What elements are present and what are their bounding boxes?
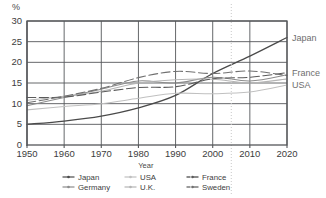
series-lines: [27, 38, 287, 125]
end-label-japan: Japan: [292, 33, 317, 43]
legend-column-col3: FranceSweden: [186, 172, 230, 192]
legend-label: Japan: [78, 173, 99, 182]
legend-marker-icon: [124, 183, 137, 191]
legend-item-uk[interactable]: U.K.: [124, 182, 156, 192]
legend-item-germany[interactable]: Germany: [62, 182, 110, 192]
legend-marker-icon: [62, 173, 75, 181]
legend-item-japan[interactable]: Japan: [62, 172, 110, 182]
legend-column-col2: USAU.K.: [124, 172, 156, 192]
legend-marker-icon: [62, 183, 75, 191]
legend-column-col1: JapanGermany: [62, 172, 110, 192]
end-label-usa: USA: [292, 80, 311, 90]
plot-frame: [27, 21, 287, 148]
line-chart: % 302520151050 1950196019701980199020002…: [0, 0, 326, 198]
plot-area: [0, 0, 326, 198]
legend-label: USA: [140, 173, 156, 182]
series-line-france: [27, 73, 287, 98]
legend-marker-icon: [186, 183, 199, 191]
series-line-germany: [27, 75, 287, 106]
legend-marker-icon: [124, 173, 137, 181]
legend-label: Germany: [78, 183, 110, 192]
end-label-france: France: [292, 68, 320, 78]
legend-label: France: [202, 173, 226, 182]
legend-label: Sweden: [202, 183, 230, 192]
legend-item-france[interactable]: France: [186, 172, 230, 182]
legend-item-sweden[interactable]: Sweden: [186, 182, 230, 192]
legend-marker-icon: [186, 173, 199, 181]
legend-item-usa[interactable]: USA: [124, 172, 156, 182]
legend-label: U.K.: [140, 183, 155, 192]
